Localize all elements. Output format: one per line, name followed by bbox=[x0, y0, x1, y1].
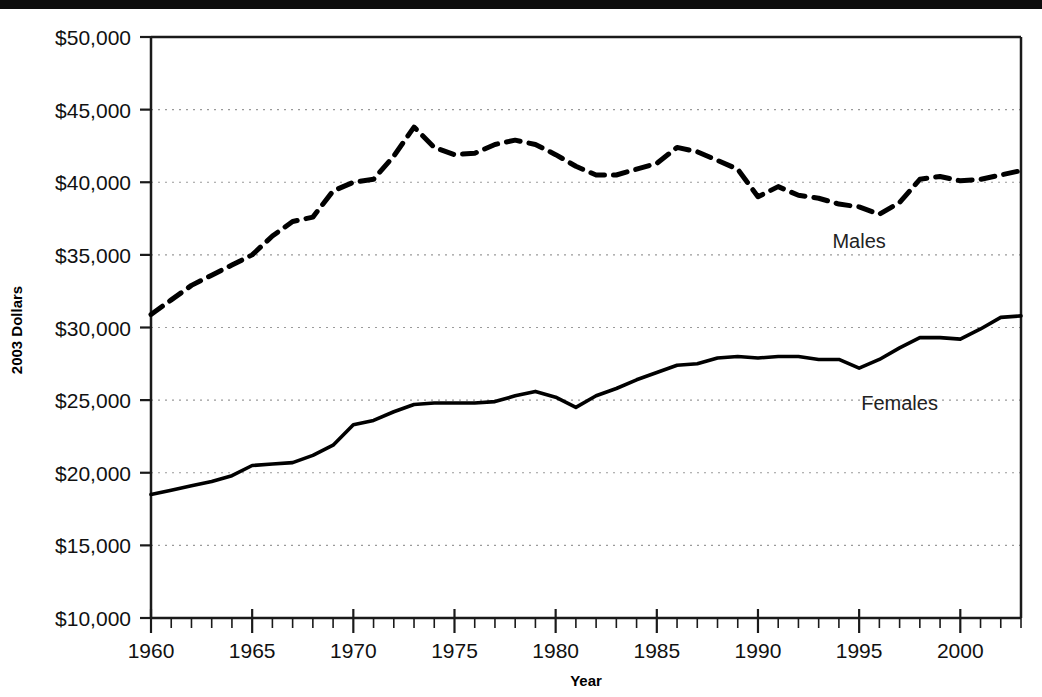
x-tick-label: 1970 bbox=[330, 639, 377, 662]
y-axis-title: 2003 Dollars bbox=[8, 286, 25, 374]
y-tick-label: $30,000 bbox=[55, 317, 131, 340]
x-axis-minor-ticks bbox=[171, 618, 1021, 628]
series-annotation-males: Males bbox=[832, 230, 885, 252]
y-tick-label: $50,000 bbox=[55, 26, 131, 49]
line-chart: $10,000$15,000$20,000$25,000$30,000$35,0… bbox=[0, 0, 1042, 697]
gridlines bbox=[151, 110, 1021, 546]
x-tick-label: 1995 bbox=[836, 639, 883, 662]
y-tick-label: $40,000 bbox=[55, 171, 131, 194]
series-annotation-females: Females bbox=[861, 392, 938, 414]
x-tick-label: 1960 bbox=[128, 639, 175, 662]
series-annotations: MalesFemales bbox=[832, 230, 937, 415]
chart-canvas: $10,000$15,000$20,000$25,000$30,000$35,0… bbox=[0, 0, 1042, 697]
x-axis-tick-labels: 196019651970197519801985199019952000 bbox=[128, 639, 984, 662]
y-tick-label: $25,000 bbox=[55, 389, 131, 412]
y-tick-label: $20,000 bbox=[55, 462, 131, 485]
y-tick-label: $45,000 bbox=[55, 99, 131, 122]
series-line-males bbox=[151, 127, 1021, 314]
x-tick-label: 1985 bbox=[633, 639, 680, 662]
x-tick-label: 2000 bbox=[937, 639, 984, 662]
x-tick-label: 1975 bbox=[431, 639, 478, 662]
y-tick-label: $35,000 bbox=[55, 244, 131, 267]
x-tick-label: 1980 bbox=[532, 639, 579, 662]
y-axis-tick-labels: $10,000$15,000$20,000$25,000$30,000$35,0… bbox=[55, 26, 131, 630]
x-axis-title: Year bbox=[570, 672, 602, 689]
y-axis-ticks bbox=[140, 37, 151, 618]
y-tick-label: $10,000 bbox=[55, 607, 131, 630]
y-tick-label: $15,000 bbox=[55, 534, 131, 557]
x-tick-label: 1990 bbox=[735, 639, 782, 662]
x-tick-label: 1965 bbox=[229, 639, 276, 662]
